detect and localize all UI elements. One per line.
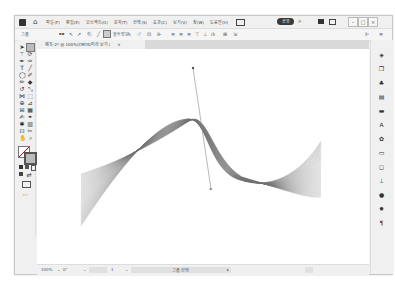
horizontal-scroll-thumb[interactable] — [305, 267, 313, 273]
color-panel-icon[interactable]: ▤ — [378, 94, 385, 100]
isolate-icon[interactable]: ⇲ — [233, 31, 237, 37]
menu-type[interactable]: 문자(T) — [114, 19, 128, 25]
properties-panel-icon[interactable]: ◈ — [378, 52, 385, 58]
close-button[interactable]: × — [368, 17, 378, 27]
variable-width-icon[interactable] — [103, 30, 111, 38]
menu-select[interactable]: 선택(S) — [133, 19, 147, 25]
zoom-level[interactable]: 100% — [41, 267, 52, 272]
maximize-button[interactable]: □ — [358, 17, 368, 27]
none-mode-icon[interactable] — [31, 165, 36, 171]
artboard-canvas[interactable]: ⌖ — [37, 49, 369, 264]
fill-swatch-icon[interactable]: ↖ — [69, 31, 73, 37]
menu-view[interactable]: 보기(V) — [173, 19, 187, 25]
main-menu: 파일(F) 편집(E) 오브젝트(O) 문자(T) 선택(S) 효과(C) 보기… — [46, 19, 234, 25]
stroke-panel-icon[interactable]: ▭ — [378, 150, 385, 156]
direction-handle-line — [193, 68, 211, 189]
menu-object[interactable]: 오브젝트(O) — [86, 19, 108, 25]
menu-help[interactable]: 도움말(H) — [210, 19, 228, 25]
status-bar: 100% ⌄ 0° ⌄ 1 ⌄ 그룹 선택 ▸ — [37, 264, 369, 275]
stroke-color-icon[interactable] — [24, 152, 37, 165]
appearance-panel-icon[interactable]: ● — [378, 192, 385, 198]
align-menu-icon[interactable]: ⊪ — [157, 31, 161, 37]
workspace-icon[interactable] — [318, 19, 324, 24]
align-right-icon[interactable]: ≡ — [187, 31, 191, 37]
character-panel-icon[interactable]: A — [378, 122, 385, 128]
draw-mode-icon[interactable] — [19, 172, 23, 176]
status-menu-icon[interactable]: ▸ — [227, 267, 229, 272]
global-edit-icon[interactable]: ↺ — [137, 31, 141, 37]
panel-menu-icon[interactable]: ⊫ — [365, 31, 369, 37]
symbols-panel-icon[interactable]: ✿ — [378, 136, 385, 142]
menu-file[interactable]: 파일(F) — [46, 19, 59, 25]
stroke-swatch-icon[interactable]: ↗ — [77, 31, 81, 37]
zoom-dropdown-icon[interactable]: ⌄ — [57, 267, 60, 272]
menu-effect[interactable]: 효과(C) — [153, 19, 167, 25]
app-logo-icon — [19, 19, 26, 26]
document-tab-title: 제목-2* @ 100%(CMYK/미리 보기) — [45, 42, 110, 47]
home-icon[interactable]: ⌂ — [33, 19, 37, 26]
tools-panel: ➤ ⚚ ⟳ ✒ ✑ T ╱ ◯ ✐ ✏ ◆ ↺ ⤡ ⋈ ⬚ ⊕ ⊿ ⊞ ▦ ✍ … — [17, 40, 36, 236]
draw-behind-icon[interactable]: ⇄ — [26, 172, 32, 178]
search-icon[interactable]: ⌕ — [298, 17, 302, 25]
rotation-value[interactable]: 0° — [63, 267, 68, 272]
fill-label: ▪▪ — [59, 31, 64, 36]
edit-toolbar-icon[interactable]: ··· — [22, 192, 28, 198]
arrange-documents-icon[interactable] — [236, 19, 245, 26]
brush-icon[interactable]: ╱ — [97, 31, 100, 37]
pen-cursor-icon: ⌖ — [209, 185, 213, 192]
align-panel-icon[interactable]: ⊥ — [378, 178, 385, 184]
layers-panel-icon[interactable]: ❐ — [378, 66, 385, 72]
panel-layout-icon[interactable] — [329, 19, 336, 25]
align-bottom-icon[interactable]: ılı — [211, 31, 215, 37]
blend-artwork[interactable]: ⌖ — [37, 49, 369, 264]
artboard-nav[interactable] — [89, 267, 107, 273]
align-middle-icon[interactable]: ⊥ — [203, 31, 207, 37]
status-text: 그룹 선택 — [172, 267, 189, 273]
menu-bar: ⌂ 파일(F) 편집(E) 오브젝트(O) 문자(T) 선택(S) 효과(C) … — [15, 16, 392, 28]
arrange-icon[interactable]: ≡ — [379, 31, 383, 37]
gradient-mode-icon[interactable] — [25, 165, 29, 169]
graphic-styles-panel-icon[interactable]: ✸ — [378, 206, 385, 212]
zoom-tool-icon[interactable]: ⌕ — [27, 135, 33, 141]
share-button[interactable]: 공유 — [277, 18, 294, 25]
minimize-button[interactable]: – — [348, 17, 358, 27]
stroke-label: 획: — [87, 31, 92, 37]
menu-window[interactable]: 창(W) — [193, 19, 204, 25]
transparency-panel-icon[interactable]: ◻ — [378, 164, 385, 170]
close-tab-icon[interactable]: × — [117, 42, 120, 47]
right-panel-dock: ◈ ❐ ♣ ▤ ▬ A ✿ ▭ ◻ ⊥ ● ✸ ¶ — [370, 40, 393, 274]
paragraph-panel-icon[interactable]: ¶ — [378, 220, 385, 226]
selection-type-label: 그룹 — [21, 31, 29, 37]
recolor-icon[interactable]: ✎ — [127, 31, 131, 37]
direction-handle-point[interactable] — [192, 67, 194, 69]
align-center-icon[interactable]: ≡ — [179, 31, 183, 37]
blend-ribbon — [81, 119, 321, 226]
transform-icon[interactable]: ⊞ — [223, 31, 227, 37]
menu-edit[interactable]: 편집(E) — [66, 19, 80, 25]
artboard-dropdown-icon[interactable]: ⌄ — [125, 267, 128, 272]
app-window: ⌂ 파일(F) 편집(E) 오브젝트(O) 문자(T) 선택(S) 효과(C) … — [14, 15, 393, 275]
rotation-dropdown-icon[interactable]: ⌄ — [83, 267, 86, 272]
hand-tool-icon[interactable]: ✋ — [19, 135, 25, 141]
artboard-icon[interactable]: ⊡ — [147, 31, 151, 37]
screen-mode-icon[interactable] — [22, 181, 31, 188]
document-tab[interactable]: 제목-2* @ 100%(CMYK/미리 보기) × — [37, 40, 145, 49]
document-tab-bar: 제목-2* @ 100%(CMYK/미리 보기) × — [37, 40, 369, 49]
artboard-number[interactable]: 1 — [111, 267, 114, 272]
color-mode-icon[interactable] — [19, 165, 23, 169]
align-left-icon[interactable]: ≡ — [171, 31, 175, 37]
align-top-icon[interactable]: ⊤ — [195, 31, 199, 37]
libraries-panel-icon[interactable]: ♣ — [378, 80, 385, 86]
swatches-panel-icon[interactable]: ▬ — [378, 108, 385, 114]
